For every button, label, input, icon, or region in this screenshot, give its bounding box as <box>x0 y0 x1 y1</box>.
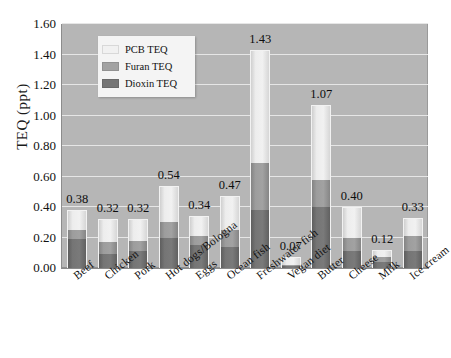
legend-label: PCB TEQ <box>125 44 168 55</box>
bar-segment[interactable] <box>98 219 118 242</box>
legend-swatch <box>102 79 119 88</box>
legend-entry[interactable]: PCB TEQ <box>102 41 190 58</box>
bar-value-label: 0.47 <box>219 178 241 193</box>
bar-stack[interactable] <box>159 186 179 268</box>
legend-entry[interactable]: Dioxin TEQ <box>102 75 190 92</box>
y-tick-label: 0.00 <box>10 260 56 276</box>
bar-segment[interactable] <box>189 216 209 236</box>
bar-segment[interactable] <box>342 207 362 238</box>
bar-value-label: 0.12 <box>371 232 393 247</box>
bar-value-label: 0.40 <box>341 189 363 204</box>
y-tick-label: 0.60 <box>10 169 56 185</box>
legend-entry[interactable]: Furan TEQ <box>102 58 190 75</box>
bar-stack[interactable] <box>342 207 362 268</box>
bar-group[interactable]: 0.38 <box>67 24 87 268</box>
bar-value-label: 0.32 <box>127 201 149 216</box>
bar-group[interactable]: 1.43 <box>250 24 270 268</box>
bar-segment[interactable] <box>98 242 118 254</box>
bar-segment[interactable] <box>128 219 148 240</box>
y-tick-label: 0.40 <box>10 199 56 215</box>
y-tick-label: 1.40 <box>10 47 56 63</box>
y-axis-tick-labels: 1.601.401.201.000.800.600.400.200.00 <box>8 0 56 358</box>
legend-label: Dioxin TEQ <box>125 78 177 89</box>
bar-value-label: 0.34 <box>188 198 210 213</box>
bar-value-label: 0.32 <box>97 201 119 216</box>
bar-value-label: 0.38 <box>66 192 88 207</box>
bar-group[interactable]: 0.12 <box>372 24 392 268</box>
bar-stack[interactable] <box>250 50 270 268</box>
bar-group[interactable]: 0.40 <box>342 24 362 268</box>
bar-segment[interactable] <box>67 210 87 230</box>
bar-segment[interactable] <box>403 218 423 236</box>
y-tick-label: 1.00 <box>10 108 56 124</box>
bar-value-label: 1.43 <box>249 32 271 47</box>
bar-stack[interactable] <box>67 210 87 268</box>
y-tick-label: 0.80 <box>10 138 56 154</box>
bar-value-label: 0.54 <box>158 168 180 183</box>
legend-swatch <box>102 62 119 71</box>
bar-value-label: 1.07 <box>310 87 332 102</box>
bar-segment[interactable] <box>403 236 423 251</box>
bar-value-label: 0.33 <box>402 200 424 215</box>
bar-segment[interactable] <box>311 180 331 207</box>
bar-segment[interactable] <box>250 50 270 163</box>
bar-segment[interactable] <box>250 163 270 210</box>
y-tick-label: 0.20 <box>10 230 56 246</box>
y-tick-label: 1.60 <box>10 16 56 32</box>
bar-segment[interactable] <box>159 222 179 237</box>
bar-segment[interactable] <box>159 186 179 223</box>
bar-group[interactable]: 0.33 <box>403 24 423 268</box>
bar-segment[interactable] <box>67 230 87 239</box>
bar-segment[interactable] <box>342 238 362 252</box>
legend-swatch <box>102 45 119 54</box>
chart-legend: PCB TEQFuran TEQDioxin TEQ <box>98 36 195 97</box>
bar-segment[interactable] <box>311 105 331 180</box>
bar-group[interactable]: 0.07 <box>281 24 301 268</box>
y-tick-label: 1.20 <box>10 77 56 93</box>
legend-label: Furan TEQ <box>125 61 172 72</box>
